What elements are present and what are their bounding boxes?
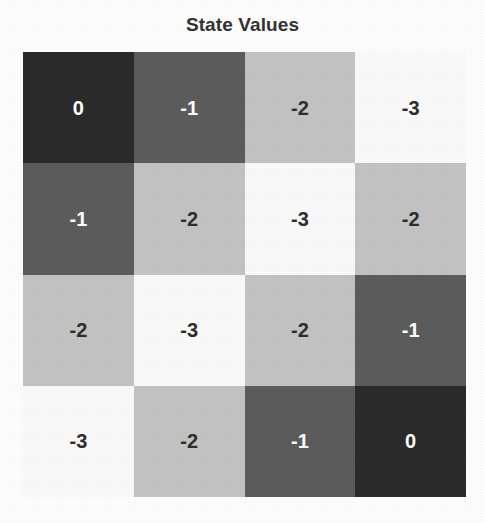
heatmap-grid: 0-1-2-3-1-2-3-2-2-3-2-1-3-2-10 — [23, 52, 466, 497]
heatmap-cell: -1 — [245, 386, 356, 497]
chart-title: State Values — [0, 14, 485, 36]
heatmap-cell: -2 — [245, 275, 356, 386]
cell-value-label: -2 — [402, 209, 420, 229]
cell-value-label: 0 — [73, 98, 84, 118]
heatmap-cell: -2 — [355, 163, 466, 274]
cell-value-label: -3 — [69, 431, 87, 451]
cell-value-label: -1 — [291, 431, 309, 451]
heatmap-cell: 0 — [355, 386, 466, 497]
cell-value-label: -2 — [69, 320, 87, 340]
cell-value-label: -3 — [291, 209, 309, 229]
heatmap-cell: -2 — [134, 386, 245, 497]
figure-canvas: State Values 0-1-2-3-1-2-3-2-2-3-2-1-3-2… — [0, 0, 485, 523]
cell-value-label: 0 — [405, 431, 416, 451]
cell-value-label: -2 — [291, 98, 309, 118]
cell-value-label: -3 — [402, 98, 420, 118]
cell-value-label: -1 — [69, 209, 87, 229]
heatmap-cell: -3 — [245, 163, 356, 274]
cell-value-label: -2 — [180, 209, 198, 229]
heatmap-cell: -2 — [23, 275, 134, 386]
cell-value-label: -3 — [180, 320, 198, 340]
cell-value-label: -1 — [180, 98, 198, 118]
heatmap-cell: 0 — [23, 52, 134, 163]
heatmap-cell: -3 — [23, 386, 134, 497]
heatmap-cell: -1 — [23, 163, 134, 274]
cell-value-label: -1 — [402, 320, 420, 340]
heatmap-cell: -3 — [355, 52, 466, 163]
heatmap-cell: -1 — [355, 275, 466, 386]
heatmap-cell: -1 — [134, 52, 245, 163]
cell-value-label: -2 — [291, 320, 309, 340]
heatmap-cell: -3 — [134, 275, 245, 386]
heatmap-cell: -2 — [245, 52, 356, 163]
heatmap-cell: -2 — [134, 163, 245, 274]
cell-value-label: -2 — [180, 431, 198, 451]
